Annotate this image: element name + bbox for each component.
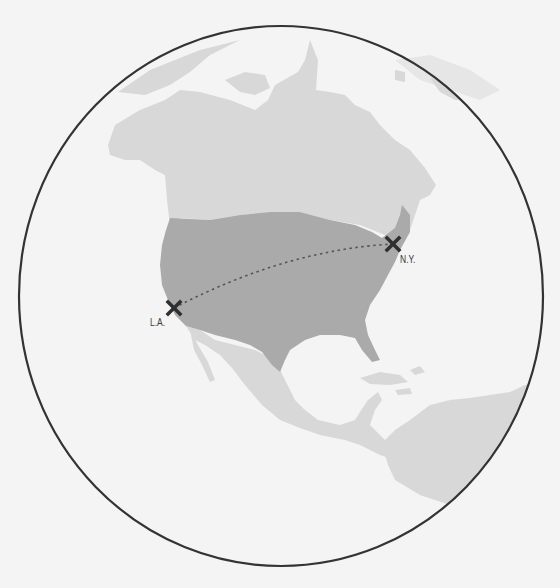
globe-map: L.A. N.Y. — [0, 0, 560, 588]
city-label-la: L.A. — [150, 317, 165, 328]
globe-contents — [108, 40, 560, 560]
globe-svg — [0, 0, 560, 588]
city-label-ny: N.Y. — [400, 254, 415, 265]
